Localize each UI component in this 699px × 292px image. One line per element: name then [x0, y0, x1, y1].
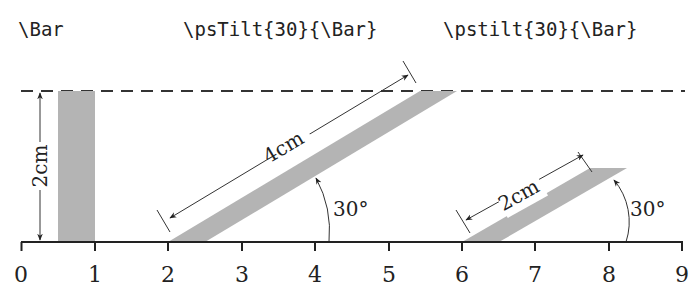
tick-label-4: 4 [308, 262, 322, 287]
tilted-bar-pstilt-upper [168, 91, 457, 242]
diagram-graphics: 2cm 4cm 30° 2cm 30° [0, 0, 699, 292]
tick-label-0: 0 [14, 262, 28, 287]
tick-label-3: 3 [235, 262, 249, 287]
tick-label-1: 1 [88, 262, 102, 287]
dim-tick-lower-end [578, 152, 592, 172]
angle-arc-lower [614, 180, 629, 242]
upright-bar [58, 91, 95, 242]
angle-label-upper: 30° [333, 197, 368, 221]
dim-tick-upper-start [157, 210, 170, 232]
tick-label-8: 8 [602, 262, 616, 287]
dim-tick-upper-end [403, 61, 416, 83]
x-axis-tick-labels: 0 1 2 3 4 5 6 7 8 9 [14, 262, 689, 287]
x-axis-ticks [22, 242, 683, 251]
height-label: 2cm [28, 145, 52, 188]
angle-label-lower: 30° [630, 197, 665, 221]
angle-arc-upper [316, 178, 330, 242]
diagram: \Bar \psTilt{30}{\Bar} \pstilt{30}{\Bar}… [0, 0, 699, 292]
tilted-bar-pstilt-lower [462, 168, 627, 242]
dim-tick-lower-start [456, 210, 470, 233]
tick-label-2: 2 [161, 262, 175, 287]
tick-label-6: 6 [455, 262, 469, 287]
tick-label-5: 5 [382, 262, 396, 287]
tick-label-7: 7 [528, 262, 542, 287]
tick-label-9: 9 [675, 262, 689, 287]
